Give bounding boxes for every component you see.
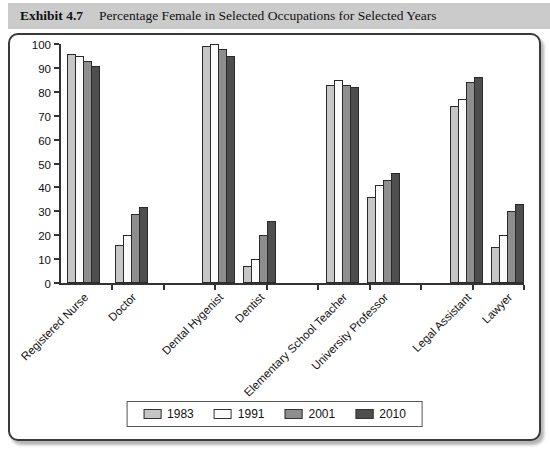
exhibit-title: Percentage Female in Selected Occupation… <box>99 8 436 24</box>
x-axis-tick <box>317 285 319 290</box>
bar-cluster <box>115 44 149 283</box>
bar-cluster <box>67 44 101 283</box>
y-axis-tick <box>54 163 59 165</box>
chart-panel: 0102030405060708090100 1983199120012010 … <box>8 33 541 441</box>
x-axis-tick <box>472 285 474 290</box>
bar-cluster <box>367 44 401 283</box>
legend-swatch-1991 <box>214 409 232 419</box>
bar-2010 <box>91 66 100 283</box>
bar-2010 <box>391 173 400 283</box>
bar-cluster <box>450 44 484 283</box>
y-axis-tick <box>54 139 59 141</box>
x-axis-tick <box>369 285 371 290</box>
y-axis-label: 100 <box>19 39 51 51</box>
y-axis-label: 40 <box>19 182 51 194</box>
y-axis-label: 80 <box>19 87 51 99</box>
bar-2010 <box>226 56 235 283</box>
x-axis-tick <box>163 285 165 290</box>
y-axis-label: 90 <box>19 63 51 75</box>
plot-area: 0102030405060708090100 <box>59 44 524 285</box>
page: Exhibit 4.7 Percentage Female in Selecte… <box>0 0 550 450</box>
y-axis-tick <box>54 258 59 260</box>
y-axis-tick <box>54 115 59 117</box>
legend-swatch-2001 <box>285 409 303 419</box>
y-axis-tick <box>54 91 59 93</box>
y-axis-label: 50 <box>19 159 51 171</box>
bar-cluster <box>202 44 236 283</box>
legend-item: 2001 <box>285 407 336 421</box>
bar-2010 <box>474 77 483 283</box>
y-axis-tick <box>54 282 59 284</box>
x-axis-tick <box>523 285 525 290</box>
legend-label: 1983 <box>167 407 194 421</box>
legend-label: 1991 <box>238 407 265 421</box>
x-axis-tick <box>111 285 113 290</box>
x-axis-tick <box>420 285 422 290</box>
y-axis-tick <box>54 67 59 69</box>
bar-2010 <box>350 87 359 283</box>
bar-cluster <box>326 44 360 283</box>
y-axis-label: 70 <box>19 111 51 123</box>
y-axis-tick <box>54 234 59 236</box>
x-axis-tick <box>266 285 268 290</box>
exhibit-label: Exhibit 4.7 <box>20 8 83 24</box>
bar-chart: 0102030405060708090100 1983199120012010 … <box>10 35 539 439</box>
y-axis-tick <box>54 186 59 188</box>
y-axis-tick <box>54 43 59 45</box>
y-axis-label: 10 <box>19 254 51 266</box>
bar-cluster <box>243 44 277 283</box>
y-axis-label: 0 <box>19 278 51 290</box>
exhibit-titlebar: Exhibit 4.7 Percentage Female in Selecte… <box>8 3 550 29</box>
bar-cluster <box>491 44 525 283</box>
bar-2010 <box>267 221 276 283</box>
y-axis-label: 60 <box>19 135 51 147</box>
x-axis-tick <box>214 285 216 290</box>
y-axis-label: 30 <box>19 206 51 218</box>
bar-2010 <box>139 207 148 283</box>
legend-label: 2001 <box>309 407 336 421</box>
y-axis-tick <box>54 210 59 212</box>
y-axis-label: 20 <box>19 230 51 242</box>
bar-2010 <box>515 204 524 283</box>
